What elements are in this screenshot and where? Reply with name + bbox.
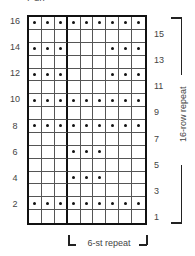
chart-cell <box>93 159 106 172</box>
row-number-label: 13 <box>154 55 164 65</box>
purl-dot-icon <box>85 124 88 127</box>
chart-cell <box>132 94 145 107</box>
chart-cell <box>42 184 55 197</box>
chart-cell <box>55 30 68 43</box>
row-number-label: 15 <box>154 29 164 39</box>
chart-cell <box>93 172 106 185</box>
row-number-label: 3 <box>154 186 159 196</box>
chart-cell <box>42 120 55 133</box>
row-repeat-label: 16-row repeat <box>178 92 188 142</box>
chart-cell <box>119 184 132 197</box>
purl-dot-icon <box>59 202 62 205</box>
chart-cell <box>132 69 145 82</box>
purl-dot-icon <box>46 202 49 205</box>
chart-cell <box>119 56 132 69</box>
chart-cell <box>68 30 81 43</box>
chart-cell <box>106 146 119 159</box>
chart-cell <box>81 172 94 185</box>
purl-dot-icon <box>85 21 88 24</box>
chart-cell <box>55 56 68 69</box>
chart-cell <box>119 159 132 172</box>
chart-cell <box>106 133 119 146</box>
chart-cell <box>55 69 68 82</box>
chart-cell <box>68 69 81 82</box>
chart-cell <box>68 172 81 185</box>
chart-cell <box>93 56 106 69</box>
chart-cell <box>132 107 145 120</box>
purl-dot-icon <box>124 124 127 127</box>
purl-dot-icon <box>124 47 127 50</box>
purl-dot-icon <box>59 124 62 127</box>
chart-cell <box>81 159 94 172</box>
chart-cell <box>132 17 145 30</box>
chart-cell <box>68 120 81 133</box>
chart-cell <box>119 107 132 120</box>
chart-cell <box>42 69 55 82</box>
stitch-repeat-bracket-right-foot <box>139 244 147 246</box>
purl-dot-icon <box>85 99 88 102</box>
purl-dot-icon <box>72 176 75 179</box>
chart-cell <box>68 184 81 197</box>
purl-dot-icon <box>33 73 36 76</box>
purl-dot-icon <box>137 124 140 127</box>
chart-cell <box>93 69 106 82</box>
chart-cell <box>55 133 68 146</box>
purl-dot-icon <box>124 202 127 205</box>
chart-cell <box>119 17 132 30</box>
chart-cell <box>55 81 68 94</box>
row-number-label: 7 <box>154 134 159 144</box>
chart-cell <box>68 133 81 146</box>
chart-cell <box>119 94 132 107</box>
chart-cell <box>119 146 132 159</box>
row-number-label: 5 <box>154 160 159 170</box>
purl-dot-icon <box>137 21 140 24</box>
chart-cell <box>55 210 68 223</box>
chart-cell <box>29 133 42 146</box>
purl-dot-icon <box>111 202 114 205</box>
chart-cell <box>29 146 42 159</box>
chart-cell <box>81 107 94 120</box>
purl-dot-icon <box>85 202 88 205</box>
purl-dot-icon <box>46 73 49 76</box>
row-number-label: 16 <box>8 16 22 26</box>
purl-dot-icon <box>98 21 101 24</box>
chart-cell <box>132 56 145 69</box>
purl-dot-icon <box>85 150 88 153</box>
purl-dot-icon <box>111 124 114 127</box>
chart-cell <box>81 56 94 69</box>
purl-dot-icon <box>59 47 62 50</box>
row-number-label: 12 <box>8 68 22 78</box>
chart-cell <box>81 94 94 107</box>
chart-cell <box>81 146 94 159</box>
chart-cell <box>119 120 132 133</box>
chart-cell <box>29 43 42 56</box>
purl-dot-icon <box>33 202 36 205</box>
chart-cell <box>29 81 42 94</box>
purl-dot-icon <box>72 99 75 102</box>
chart-cell <box>93 30 106 43</box>
chart-cell <box>29 69 42 82</box>
chart-cell <box>93 107 106 120</box>
chart-cell <box>42 81 55 94</box>
chart-cell <box>106 120 119 133</box>
row-repeat-bracket-bottom-tick <box>171 222 182 224</box>
chart-cell <box>81 69 94 82</box>
purl-dot-icon <box>33 47 36 50</box>
purl-dot-icon <box>46 21 49 24</box>
chart-cell <box>132 197 145 210</box>
chart-cell <box>42 159 55 172</box>
chart-cell <box>132 30 145 43</box>
chart-cell <box>68 210 81 223</box>
chart-cell <box>42 107 55 120</box>
chart-cell <box>119 69 132 82</box>
chart-cell <box>81 197 94 210</box>
purl-dot-icon <box>46 124 49 127</box>
chart-cell <box>68 146 81 159</box>
chart-cell <box>93 197 106 210</box>
chart-cell <box>68 81 81 94</box>
chart-cell <box>55 43 68 56</box>
chart-cell <box>132 210 145 223</box>
chart-cell <box>93 210 106 223</box>
row-number-label: 14 <box>8 42 22 52</box>
row-number-label: 10 <box>8 94 22 104</box>
